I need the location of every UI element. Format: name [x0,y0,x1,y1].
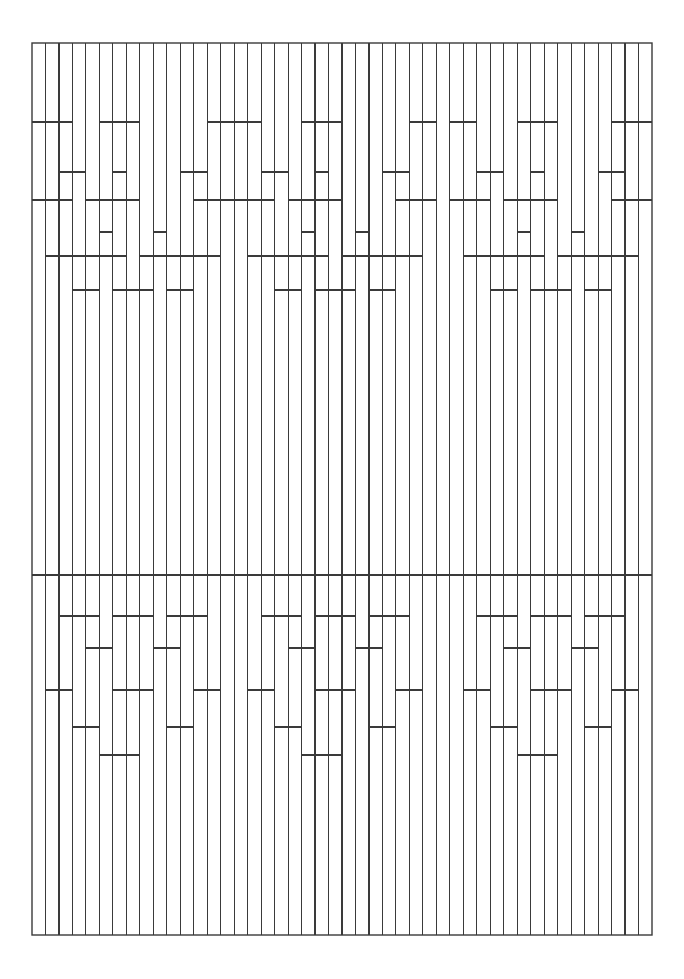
artboard [0,0,684,979]
line-pattern-artwork [0,0,684,979]
